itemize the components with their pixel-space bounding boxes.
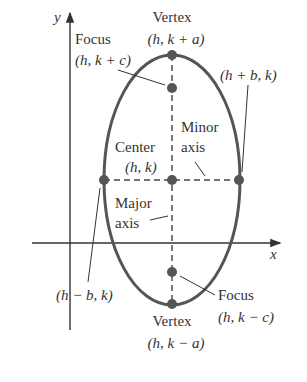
right-point-coord: (h + b, k)	[220, 67, 277, 84]
right-covertex-point	[234, 175, 244, 185]
y-axis-label: y	[52, 9, 61, 25]
vertex-bottom-coord: (h, k − a)	[148, 335, 205, 352]
vertex-top-title: Vertex	[152, 9, 192, 25]
center-point	[167, 175, 177, 185]
focus-top-point	[167, 83, 177, 93]
vertex-bottom-title: Vertex	[152, 313, 192, 329]
focus-top-leader	[118, 70, 165, 85]
right-point-leader	[242, 85, 248, 172]
vertex-top-coord: (h, k + a)	[148, 31, 205, 48]
focus-top-title: Focus	[75, 31, 111, 47]
ellipse-diagram: y x Vertex (h, k + a) Focus (h, k + c) (…	[0, 0, 307, 382]
minor-axis-label-1: Minor	[181, 119, 219, 135]
vertex-bottom-point	[167, 299, 177, 309]
left-point-coord: (h − b, k)	[56, 287, 113, 304]
left-covertex-point	[99, 175, 109, 185]
minor-axis-label-2: axis	[181, 139, 205, 155]
major-axis-label-1: Major	[115, 195, 152, 211]
major-axis-leader	[150, 216, 168, 220]
focus-bottom-coord: (h, k − c)	[218, 309, 274, 326]
minor-axis-leader	[195, 162, 205, 176]
vertex-top-point	[167, 50, 177, 60]
major-axis-label-2: axis	[115, 215, 139, 231]
x-axis-label: x	[269, 246, 277, 262]
focus-bottom-point	[167, 267, 177, 277]
focus-top-coord: (h, k + c)	[75, 52, 131, 69]
focus-bottom-title: Focus	[218, 287, 254, 303]
center-title: Center	[115, 139, 155, 155]
center-coord: (h, k)	[125, 159, 157, 176]
left-point-leader	[88, 188, 100, 282]
